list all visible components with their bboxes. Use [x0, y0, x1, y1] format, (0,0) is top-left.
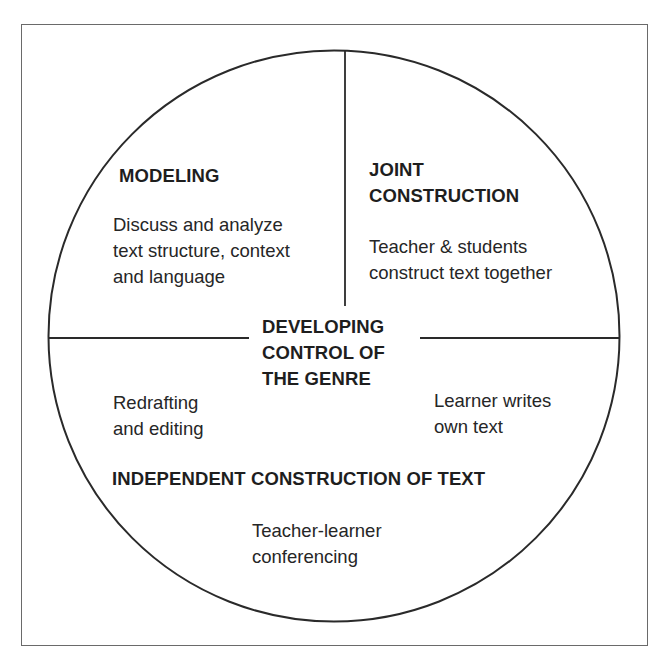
joint-construction-description-line: construct text together	[369, 260, 552, 286]
diagram-canvas: DEVELOPING CONTROL OF THE GENRE MODELING…	[0, 0, 666, 663]
modeling-title: MODELING	[119, 163, 220, 189]
independent-construction-title-text: INDEPENDENT CONSTRUCTION OF TEXT	[112, 466, 485, 492]
center-label: DEVELOPING CONTROL OF THE GENRE	[262, 314, 385, 392]
center-label-line: THE GENRE	[262, 366, 385, 392]
modeling-title-text: MODELING	[119, 163, 220, 189]
joint-construction-description: Teacher & students construct text togeth…	[369, 234, 552, 286]
modeling-description-line: Discuss and analyze	[113, 212, 290, 238]
modeling-description-line: and language	[113, 264, 290, 290]
conferencing-note: Teacher-learner conferencing	[252, 518, 382, 570]
joint-construction-title-line: CONSTRUCTION	[369, 183, 519, 209]
learner-writes-note-line: Learner writes	[434, 388, 551, 414]
modeling-description: Discuss and analyze text structure, cont…	[113, 212, 290, 290]
center-label-line: CONTROL OF	[262, 340, 385, 366]
conferencing-note-line: conferencing	[252, 544, 382, 570]
redrafting-note: Redrafting and editing	[113, 390, 204, 442]
center-label-line: DEVELOPING	[262, 314, 385, 340]
conferencing-note-line: Teacher-learner	[252, 518, 382, 544]
learner-writes-note-line: own text	[434, 414, 551, 440]
joint-construction-description-line: Teacher & students	[369, 234, 552, 260]
joint-construction-title: JOINT CONSTRUCTION	[369, 157, 519, 209]
redrafting-note-line: Redrafting	[113, 390, 204, 416]
joint-construction-title-line: JOINT	[369, 157, 519, 183]
learner-writes-note: Learner writes own text	[434, 388, 551, 440]
redrafting-note-line: and editing	[113, 416, 204, 442]
modeling-description-line: text structure, context	[113, 238, 290, 264]
independent-construction-title: INDEPENDENT CONSTRUCTION OF TEXT	[112, 466, 485, 492]
